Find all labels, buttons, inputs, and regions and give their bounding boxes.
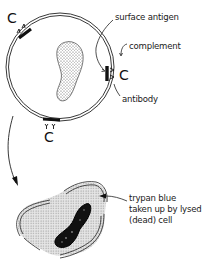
label-antibody: antibody	[122, 93, 158, 104]
complement-symbol-right: C	[119, 68, 129, 82]
lysis-arrow	[8, 116, 18, 186]
label-trypan-line3: (dead) cell	[129, 214, 172, 225]
label-surface-antigen: surface antigen	[115, 11, 179, 22]
intact-cell	[6, 13, 114, 121]
complement-symbol-bottom: C	[44, 130, 54, 144]
label-trypan-line1: trypan blue	[129, 192, 176, 203]
antigen-complex-bottom	[43, 119, 60, 129]
lysed-cell	[17, 182, 108, 258]
complement-symbol-top-left: C	[7, 11, 17, 25]
nucleus	[57, 42, 83, 101]
label-trypan-line2: taken up by lysed	[129, 203, 202, 214]
label-complement: complement	[129, 40, 181, 51]
